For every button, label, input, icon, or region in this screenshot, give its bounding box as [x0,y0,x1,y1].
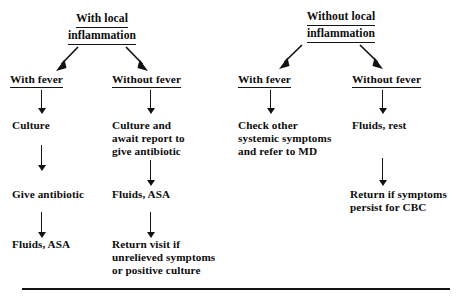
bottom-divider [22,288,450,290]
arrow-col2-to-return-visit [146,212,155,238]
branch-label-without-fever-local: Without fever [112,73,181,88]
arrow-col4-to-return-if-symptoms [378,158,387,186]
group-header-line2: inflammation [307,26,375,43]
step-col2-fluids-asa: Fluids, ASA [112,188,222,201]
group-header-without-local-inflammation: Without local inflammation [278,9,404,43]
branch-label-without-fever-systemic: Without fever [352,73,421,88]
branch-arrow-right-group-right [352,42,388,72]
arrow-col4-to-fluids-rest [378,90,387,114]
group-header-line1: With local [76,11,128,28]
arrow-col1-to-culture [37,90,46,114]
step-col4-fluids-rest: Fluids, rest [352,119,456,132]
arrow-col3-to-check-other [266,90,275,114]
step-col4-return-if-symptoms: Return if symptoms persist for CBC [350,188,464,214]
step-col1-fluids-asa: Fluids, ASA [12,238,110,251]
arrow-col2-to-culture-await [146,90,155,114]
branch-arrow-left-group-right [118,44,152,74]
branch-label-with-fever-systemic: With fever [238,73,291,88]
group-header-line2: inflammation [68,28,136,45]
step-col2-return-visit: Return visit if unrelieved symptoms or p… [112,238,238,278]
branch-arrow-right-group-left [274,42,310,72]
group-header-line1: Without local [307,9,375,26]
step-col1-culture: Culture [12,119,104,132]
arrow-col1-to-give-antibiotic [37,145,46,171]
step-col1-give-antibiotic: Give antibiotic [12,188,110,201]
step-col3-check-other-systemic: Check other systemic symptoms and refer … [238,119,362,159]
branch-arrow-left-group-left [52,44,86,74]
group-header-with-local-inflammation: With local inflammation [46,11,158,45]
branch-label-with-fever-local: With fever [10,73,63,88]
flowchart-canvas: With local inflammation With fever Witho… [0,0,464,303]
arrow-col1-to-fluids-asa [37,212,46,238]
step-col2-culture-await-report: Culture and await report to give antibio… [112,119,224,159]
arrow-col2-to-fluids-asa [146,160,155,186]
